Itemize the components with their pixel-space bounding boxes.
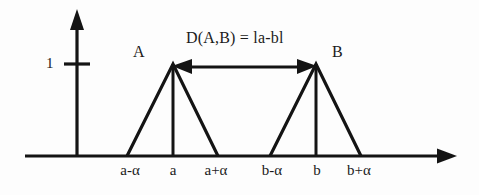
x-tick-label-b-minus-alpha: b-α: [250, 163, 294, 178]
x-axis-arrowhead: [437, 149, 457, 164]
x-tick-label-b: b: [299, 163, 335, 178]
distance-label: D(A,B) = la-bl: [186, 30, 284, 46]
x-tick-label-a-minus-alpha: a-α: [108, 163, 152, 178]
y-axis-arrowhead: [70, 9, 84, 30]
fuzzy-distance-figure: 1 A B D(A,B) = la-bl a-α a a+α b-α b b+α: [0, 0, 479, 195]
set-b-label: B: [332, 44, 343, 60]
distance-arrow-head-right: [297, 59, 317, 74]
y-axis-tick-label-1: 1: [46, 56, 54, 71]
x-tick-label-a-plus-alpha: a+α: [193, 163, 239, 178]
distance-arrow-head-left: [172, 59, 192, 74]
x-tick-label-a: a: [155, 163, 191, 178]
set-a-label: A: [133, 44, 145, 60]
x-tick-label-b-plus-alpha: b+α: [336, 163, 382, 178]
